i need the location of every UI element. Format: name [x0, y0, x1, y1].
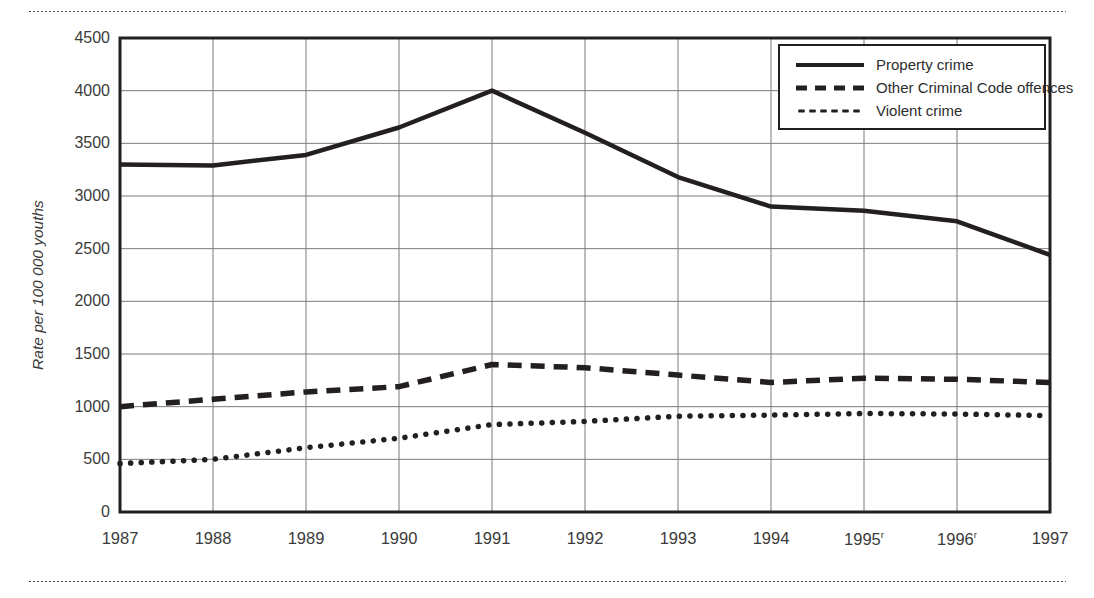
y-tick-label: 2500 [54, 241, 110, 257]
x-tick-label-text: 1991 [474, 529, 511, 547]
y-tick-label: 3000 [54, 188, 110, 204]
x-tick-label: 1987 [75, 530, 165, 547]
x-tick-label: 1995r [819, 530, 909, 547]
y-tick-label: 4500 [54, 30, 110, 46]
x-tick-label-text: 1992 [567, 529, 604, 547]
x-tick-label-text: 1994 [753, 529, 790, 547]
legend-line-dashed-icon [796, 82, 864, 94]
x-tick-label-text: 1989 [288, 529, 325, 547]
y-tick-label: 0 [54, 504, 110, 520]
x-tick-label-text: 1988 [195, 529, 232, 547]
y-tick-label: 1500 [54, 346, 110, 362]
x-tick-label: 1988 [168, 530, 258, 547]
x-tick-label: 1992 [540, 530, 630, 547]
y-axis-title: Rate per 100 000 youths [29, 165, 47, 405]
x-tick-label: 1989 [261, 530, 351, 547]
y-tick-label: 4000 [54, 83, 110, 99]
legend-line-dotted-icon [796, 105, 864, 117]
x-tick-label: 1993 [633, 530, 723, 547]
y-tick-label: 500 [54, 451, 110, 467]
legend-label: Property crime [876, 56, 974, 73]
legend-row: Property crime [780, 53, 1044, 76]
x-tick-label: 1996r [912, 530, 1002, 547]
line-chart: Rate per 100 000 youths 4500400035003000… [0, 0, 1094, 598]
x-tick-revision-marker: r [881, 529, 884, 540]
x-tick-label: 1994 [726, 530, 816, 547]
x-tick-label: 1997 [1005, 530, 1094, 547]
y-tick-label: 1000 [54, 399, 110, 415]
y-tick-label: 3500 [54, 135, 110, 151]
x-tick-label-text: 1987 [102, 529, 139, 547]
legend-line-solid-icon [796, 59, 864, 71]
legend-row: Other Criminal Code offences [780, 76, 1044, 99]
x-tick-label-text: 1993 [660, 529, 697, 547]
legend-label: Violent crime [876, 102, 962, 119]
legend-label: Other Criminal Code offences [876, 79, 1073, 96]
x-tick-label: 1990 [354, 530, 444, 547]
x-tick-label-text: 1997 [1032, 529, 1069, 547]
legend-row: Violent crime [780, 99, 1044, 122]
x-tick-label: 1991 [447, 530, 537, 547]
x-tick-revision-marker: r [974, 529, 977, 540]
y-tick-label: 2000 [54, 293, 110, 309]
x-tick-label-text: 1995 [844, 530, 881, 548]
x-tick-label-text: 1996 [937, 530, 974, 548]
x-tick-label-text: 1990 [381, 529, 418, 547]
chart-legend: Property crimeOther Criminal Code offenc… [778, 44, 1046, 130]
